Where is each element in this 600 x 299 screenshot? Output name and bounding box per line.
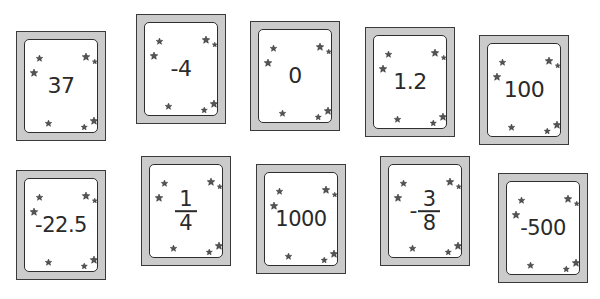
star-icon	[555, 53, 561, 59]
star-icon	[326, 39, 332, 45]
card-face: 1000	[264, 172, 338, 266]
number-card[interactable]: -4	[136, 14, 226, 124]
star-icon	[215, 235, 223, 243]
star-icon	[36, 186, 43, 193]
card-face: -22.5	[24, 178, 98, 272]
star-icon	[431, 42, 439, 50]
star-icon	[165, 95, 172, 102]
star-icon	[321, 248, 328, 255]
number-card[interactable]: 0	[250, 21, 340, 131]
star-icon	[285, 245, 292, 252]
card-value: 1.2	[374, 71, 446, 93]
star-icon	[324, 100, 332, 108]
star-icon	[499, 51, 506, 58]
fraction-numerator: 1	[179, 189, 192, 209]
star-icon	[330, 243, 338, 251]
star-icon	[90, 249, 98, 257]
card-value: -4	[145, 58, 217, 80]
fraction-denominator: 4	[179, 213, 192, 233]
number-card[interactable]: -22.5	[16, 170, 106, 280]
star-icon	[81, 115, 88, 122]
star-icon	[454, 235, 462, 243]
star-icon	[572, 252, 580, 260]
star-icon	[270, 195, 278, 203]
star-icon	[430, 111, 437, 118]
star-icon	[212, 32, 218, 38]
card-face: 100	[487, 43, 561, 137]
star-icon	[322, 179, 330, 187]
star-icon	[202, 29, 210, 37]
star-icon	[207, 171, 215, 179]
star-icon	[217, 174, 223, 180]
card-value: -22.5	[25, 215, 97, 236]
star-icon	[545, 50, 553, 58]
star-icon	[161, 172, 168, 179]
number-card[interactable]: -38	[380, 156, 470, 266]
card-fraction: -38	[389, 189, 461, 233]
fraction-numerator: 3	[423, 189, 436, 209]
star-icon	[45, 251, 52, 258]
star-icon	[564, 188, 572, 196]
star-icon	[527, 254, 534, 261]
star-icon	[379, 58, 387, 66]
star-icon	[409, 237, 416, 244]
star-icon	[264, 52, 272, 60]
star-icon	[446, 171, 454, 179]
star-icon	[170, 237, 177, 244]
star-icon	[332, 182, 338, 188]
number-card[interactable]: 37	[16, 31, 106, 141]
star-icon	[441, 45, 447, 51]
star-icon	[518, 189, 525, 196]
star-icon	[508, 116, 515, 123]
star-icon	[279, 102, 286, 109]
star-icon	[82, 46, 90, 54]
star-icon	[394, 108, 401, 115]
star-icon	[445, 240, 452, 247]
card-value: -500	[507, 218, 579, 239]
fraction-denominator: 8	[423, 213, 436, 233]
star-icon	[90, 110, 98, 118]
number-card[interactable]: 14	[141, 156, 231, 266]
card-value: 100	[488, 79, 560, 101]
star-icon	[544, 119, 551, 126]
fraction-sign: -	[410, 200, 418, 222]
number-card[interactable]: 1000	[256, 164, 346, 274]
number-card[interactable]: 100	[479, 35, 569, 145]
star-icon	[92, 49, 98, 55]
star-icon	[81, 254, 88, 261]
star-icon	[156, 30, 163, 37]
star-icon	[439, 106, 447, 114]
number-card[interactable]: -500	[498, 173, 588, 283]
star-icon	[574, 191, 580, 197]
star-icon	[206, 240, 213, 247]
star-icon	[82, 185, 90, 193]
number-card[interactable]: 1.2	[365, 27, 455, 137]
star-icon	[493, 66, 501, 74]
fraction-stack: 38	[418, 189, 440, 233]
star-icon	[45, 112, 52, 119]
card-face: 37	[24, 39, 98, 133]
star-icon	[316, 36, 324, 44]
star-icon	[30, 62, 38, 70]
star-icon	[385, 43, 392, 50]
star-icon	[276, 180, 283, 187]
card-face: 1.2	[373, 35, 447, 129]
star-icon	[553, 114, 561, 122]
card-fraction: 14	[150, 189, 222, 233]
star-icon	[400, 172, 407, 179]
card-face: 14	[149, 164, 223, 258]
star-icon	[201, 98, 208, 105]
star-icon	[36, 47, 43, 54]
star-icon	[563, 257, 570, 264]
star-icon	[456, 174, 462, 180]
card-face: -38	[388, 164, 462, 258]
star-icon	[315, 105, 322, 112]
card-value: 0	[259, 65, 331, 87]
star-icon	[270, 37, 277, 44]
card-value: 1000	[265, 209, 337, 230]
card-face: -500	[506, 181, 580, 275]
star-icon	[150, 45, 158, 53]
card-face: 0	[258, 29, 332, 123]
fraction-stack: 14	[175, 189, 197, 233]
star-icon	[512, 204, 520, 212]
